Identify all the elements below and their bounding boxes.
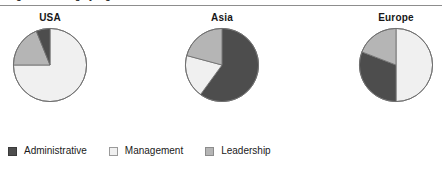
header-divider — [0, 5, 442, 6]
pie-chart-title: USA — [0, 12, 125, 23]
swatch-management — [109, 147, 118, 156]
pie-chart-title: Asia — [147, 12, 297, 23]
pie-graphic — [358, 27, 434, 103]
legend-item-management[interactable]: Management — [109, 146, 183, 156]
legend-label: Administrative — [24, 146, 87, 156]
legend-item-administrative[interactable]: Administrative — [8, 146, 87, 156]
legend-label: Leadership — [221, 146, 270, 156]
pie-graphic — [12, 27, 88, 103]
pie-slice-management[interactable] — [396, 28, 433, 101]
pie-chart-title: Europe — [321, 12, 442, 23]
legend-label: Management — [125, 146, 183, 156]
pie-chart-row: USAAsiaEurope — [0, 10, 442, 132]
pie-graphic — [184, 27, 260, 103]
figure-caption-fragment: Figure 3 Staffing by region — [8, 0, 125, 3]
chart-legend: AdministrativeManagementLeadership — [8, 144, 293, 158]
legend-item-leadership[interactable]: Leadership — [205, 146, 270, 156]
swatch-administrative — [8, 147, 17, 156]
pie-chart-usa: USA — [0, 10, 125, 132]
pie-chart-europe: Europe — [321, 10, 442, 132]
swatch-leadership — [205, 147, 214, 156]
pie-chart-asia: Asia — [147, 10, 297, 132]
